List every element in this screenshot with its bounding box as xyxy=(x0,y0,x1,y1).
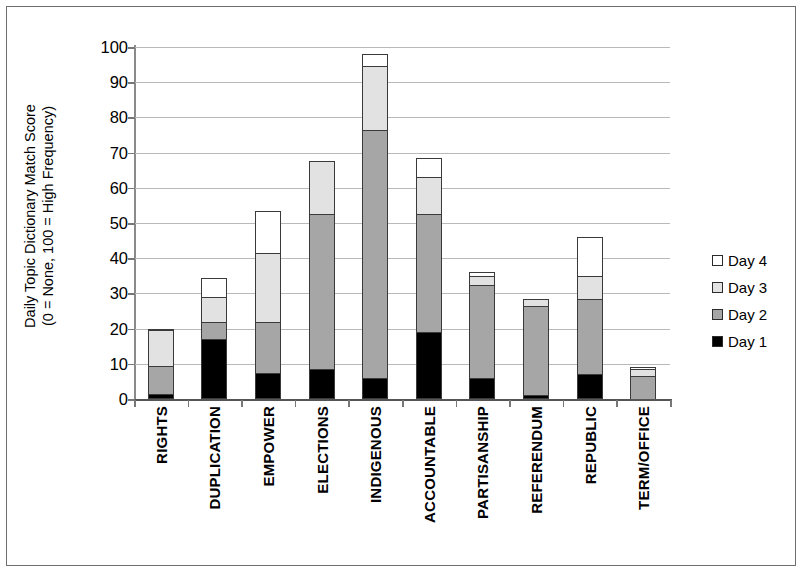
y-tick-label: 30 xyxy=(82,285,128,301)
x-axis-label-rights: RIGHTS xyxy=(134,406,188,534)
bar-segment-day-3[interactable] xyxy=(469,276,495,285)
y-tick-label: 100 xyxy=(82,39,128,55)
y-axis-title: Daily Topic Dictionary Match Score (0 = … xyxy=(18,30,60,402)
x-axis-label-empower: EMPOWER xyxy=(241,406,295,534)
x-axis-label-referendum: REFERENDUM xyxy=(509,406,563,534)
bar-segment-day-1[interactable] xyxy=(362,378,388,399)
y-tick-label: 80 xyxy=(82,109,128,125)
y-tick-label: 90 xyxy=(82,74,128,90)
x-axis-label-text: ACCOUNTABLE xyxy=(420,406,437,523)
stacked-bar[interactable] xyxy=(630,367,656,399)
bar-segment-day-1[interactable] xyxy=(255,373,281,399)
y-tick-label: 70 xyxy=(82,145,128,161)
bar-group xyxy=(295,47,349,399)
legend-item[interactable]: Day 1 xyxy=(712,328,790,355)
bar-segment-day-4[interactable] xyxy=(577,237,603,276)
stacked-bar[interactable] xyxy=(309,161,335,399)
legend-label: Day 1 xyxy=(728,333,767,350)
bar-segment-day-2[interactable] xyxy=(523,306,549,396)
y-tick-label: 0 xyxy=(82,391,128,407)
legend-label: Day 4 xyxy=(728,252,767,269)
bar-segment-day-4[interactable] xyxy=(255,211,281,253)
y-axis-title-line-1: Daily Topic Dictionary Match Score xyxy=(21,104,39,328)
bar-segment-day-2[interactable] xyxy=(469,285,495,378)
x-axis-label-text: EMPOWER xyxy=(260,406,277,487)
stacked-bar[interactable] xyxy=(469,272,495,399)
bar-segment-day-1[interactable] xyxy=(469,378,495,399)
y-axis-title-line-2: (0 = None, 100 = High Frequency) xyxy=(39,104,57,328)
legend-swatch-icon xyxy=(712,336,723,347)
stacked-bar[interactable] xyxy=(255,211,281,399)
bar-segment-day-1[interactable] xyxy=(309,369,335,399)
bar-segment-day-3[interactable] xyxy=(201,297,227,322)
bar-series-container xyxy=(134,47,670,399)
x-axis-label-republic: REPUBLIC xyxy=(563,406,617,534)
bar-group xyxy=(402,47,456,399)
bar-segment-day-2[interactable] xyxy=(416,214,442,332)
bar-segment-day-3[interactable] xyxy=(255,253,281,322)
bar-segment-day-1[interactable] xyxy=(148,394,174,399)
bar-segment-day-3[interactable] xyxy=(309,161,335,214)
x-axis-label-text: RIGHTS xyxy=(152,406,169,464)
bar-segment-day-3[interactable] xyxy=(630,369,656,376)
bar-segment-day-3[interactable] xyxy=(523,299,549,306)
x-axis-label-indigenous: INDIGENOUS xyxy=(348,406,402,534)
bar-group xyxy=(348,47,402,399)
stacked-bar[interactable] xyxy=(362,54,388,399)
x-axis-label-text: REFERENDUM xyxy=(528,406,545,514)
bar-segment-day-2[interactable] xyxy=(201,322,227,340)
y-tick-label: 10 xyxy=(82,356,128,372)
chart-legend: Day 4Day 3Day 2Day 1 xyxy=(712,247,790,355)
stacked-bar[interactable] xyxy=(416,158,442,399)
stacked-bar[interactable] xyxy=(201,278,227,399)
bar-segment-day-4[interactable] xyxy=(201,278,227,297)
bar-segment-day-2[interactable] xyxy=(148,366,174,394)
legend-label: Day 3 xyxy=(728,279,767,296)
bar-group xyxy=(456,47,510,399)
legend-item[interactable]: Day 4 xyxy=(712,247,790,274)
x-axis-label-accountable: ACCOUNTABLE xyxy=(402,406,456,534)
bar-segment-day-1[interactable] xyxy=(577,374,603,399)
bar-segment-day-2[interactable] xyxy=(577,299,603,375)
x-tick-mark xyxy=(670,400,672,407)
bar-segment-day-2[interactable] xyxy=(255,322,281,373)
bar-segment-day-4[interactable] xyxy=(416,158,442,177)
stacked-bar[interactable] xyxy=(523,299,549,399)
y-tick-label: 40 xyxy=(82,250,128,266)
bar-segment-day-1[interactable] xyxy=(201,339,227,399)
bar-segment-day-3[interactable] xyxy=(577,276,603,299)
x-axis-label-text: INDIGENOUS xyxy=(367,406,384,503)
bar-group xyxy=(188,47,242,399)
bar-segment-day-2[interactable] xyxy=(362,130,388,378)
bar-group xyxy=(509,47,563,399)
legend-swatch-icon xyxy=(712,255,723,266)
x-axis-label-duplication: DUPLICATION xyxy=(187,406,241,534)
bar-group xyxy=(616,47,670,399)
bar-segment-day-3[interactable] xyxy=(148,330,174,365)
bar-segment-day-3[interactable] xyxy=(362,66,388,129)
legend-item[interactable]: Day 3 xyxy=(712,274,790,301)
x-axis-label-text: PARTISANSHIP xyxy=(474,406,491,519)
x-axis-label-partisanship: PARTISANSHIP xyxy=(455,406,509,534)
x-axis-label-elections: ELECTIONS xyxy=(295,406,349,534)
y-tick-label: 60 xyxy=(82,180,128,196)
bar-group xyxy=(134,47,188,399)
y-tick-label: 20 xyxy=(82,321,128,337)
x-axis-label-term-office: TERM/OFFICE xyxy=(616,406,670,534)
x-axis-label-text: REPUBLIC xyxy=(581,406,598,484)
legend-swatch-icon xyxy=(712,282,723,293)
bar-segment-day-1[interactable] xyxy=(416,332,442,399)
legend-label: Day 2 xyxy=(728,306,767,323)
x-axis-label-text: ELECTIONS xyxy=(313,406,330,494)
bar-segment-day-4[interactable] xyxy=(362,54,388,66)
bar-segment-day-3[interactable] xyxy=(416,177,442,214)
y-tick-label: 50 xyxy=(82,215,128,231)
bar-group xyxy=(241,47,295,399)
x-axis-label-text: DUPLICATION xyxy=(206,406,223,510)
bar-segment-day-2[interactable] xyxy=(630,376,656,399)
stacked-bar[interactable] xyxy=(148,329,174,399)
bar-segment-day-1[interactable] xyxy=(523,395,549,399)
stacked-bar[interactable] xyxy=(577,237,603,399)
legend-item[interactable]: Day 2 xyxy=(712,301,790,328)
bar-segment-day-2[interactable] xyxy=(309,214,335,369)
